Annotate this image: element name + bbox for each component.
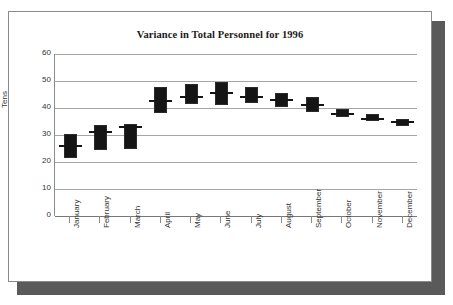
x-tick-label: August bbox=[285, 203, 293, 228]
x-tick-label: July bbox=[255, 214, 263, 228]
gridline bbox=[55, 189, 417, 190]
x-tick-mark bbox=[160, 216, 161, 223]
x-tick-mark bbox=[190, 216, 191, 223]
chart-screenshot: Variance in Total Personnel for 1996 Ten… bbox=[0, 0, 453, 305]
x-tick-mark bbox=[341, 216, 342, 223]
close-marker bbox=[149, 100, 172, 102]
x-tick-label: March bbox=[134, 206, 142, 228]
gridline bbox=[55, 135, 417, 136]
gridline bbox=[55, 54, 417, 55]
x-tick-label: October bbox=[345, 200, 353, 228]
gridline bbox=[55, 81, 417, 82]
x-tick-mark bbox=[251, 216, 252, 223]
close-marker bbox=[210, 92, 233, 94]
y-tick-label: 20 bbox=[25, 157, 51, 165]
x-tick-label: April bbox=[164, 212, 172, 228]
gridline bbox=[55, 108, 417, 109]
x-tick-label: January bbox=[73, 200, 81, 228]
plot-wrapper: Tens 0102030405060 JanuaryFebruaryMarchA… bbox=[9, 12, 433, 283]
close-marker bbox=[301, 104, 324, 106]
gridline bbox=[55, 162, 417, 163]
close-marker bbox=[391, 121, 414, 123]
y-tick-label: 50 bbox=[25, 76, 51, 84]
x-tick-mark bbox=[281, 216, 282, 223]
x-tick-mark bbox=[402, 216, 403, 223]
close-marker bbox=[89, 131, 112, 133]
x-tick-label: February bbox=[103, 196, 111, 228]
x-tick-mark bbox=[99, 216, 100, 223]
x-tick-mark bbox=[69, 216, 70, 223]
y-tick-label: 40 bbox=[25, 103, 51, 111]
y-tick-label: 30 bbox=[25, 130, 51, 138]
chart-frame: Variance in Total Personnel for 1996 Ten… bbox=[8, 11, 432, 282]
high-low-bar bbox=[185, 84, 198, 104]
close-marker bbox=[331, 113, 354, 115]
x-tick-label: May bbox=[194, 213, 202, 228]
y-axis-title: Tens bbox=[0, 91, 9, 108]
x-tick-label: September bbox=[315, 189, 323, 228]
x-tick-mark bbox=[372, 216, 373, 223]
close-marker bbox=[270, 99, 293, 101]
close-marker bbox=[240, 96, 263, 98]
high-low-bar bbox=[94, 125, 107, 150]
x-tick-mark bbox=[130, 216, 131, 223]
close-marker bbox=[361, 118, 384, 120]
x-tick-label: November bbox=[376, 191, 384, 228]
y-tick-label: 10 bbox=[25, 184, 51, 192]
x-tick-mark bbox=[220, 216, 221, 223]
plot-area bbox=[54, 54, 417, 216]
close-marker bbox=[59, 145, 82, 147]
y-tick-label: 0 bbox=[25, 211, 51, 219]
x-tick-label: December bbox=[406, 191, 414, 228]
x-tick-label: June bbox=[224, 211, 232, 228]
y-tick-label: 60 bbox=[25, 49, 51, 57]
close-marker bbox=[119, 126, 142, 128]
close-marker bbox=[180, 96, 203, 98]
x-tick-mark bbox=[311, 216, 312, 223]
